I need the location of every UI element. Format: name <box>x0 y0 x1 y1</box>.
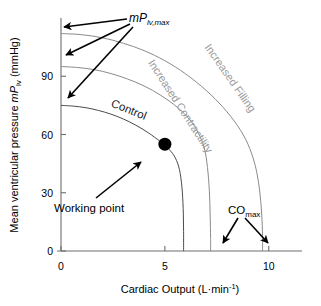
curve-inline-label-1: Increased Contractility <box>146 57 216 155</box>
curve-inline-label-0: Control <box>110 97 149 122</box>
mplvmax-annotation: mPlv,max <box>64 11 171 98</box>
curve-control <box>61 105 184 251</box>
x-axis-title-superscript: -1 <box>229 282 236 291</box>
comax-label: COmax <box>228 204 260 219</box>
y-axis-title-pre: Mean ventricular pressure <box>8 102 20 232</box>
y-tick-label-0: 0 <box>47 245 53 257</box>
comax-base: CO <box>228 204 245 216</box>
chart-canvas: 05100306090 ControlIncreased Contractili… <box>0 0 321 306</box>
x-axis-title-close: ) <box>236 283 240 295</box>
y-axis-title: Mean ventricular pressure mPlv (mmHg) <box>8 37 23 232</box>
y-tick-label-3: 90 <box>41 70 53 82</box>
y-tick-label-1: 30 <box>41 187 53 199</box>
y-tick-label-2: 60 <box>41 129 53 141</box>
curve-inline-label-2: Increased Filling <box>203 42 259 114</box>
curve-label-group: ControlIncreased ContractilityIncreased … <box>110 42 259 156</box>
mplvmax-subscript: lv,max <box>147 18 171 27</box>
comax-subscript: max <box>245 210 260 219</box>
mplvmax-leader-1 <box>64 19 127 27</box>
x-tick-label-1: 5 <box>162 260 168 272</box>
mplvmax-leader-2 <box>66 24 130 55</box>
mplvmax-label: mPlv,max <box>129 11 171 27</box>
curve-increased-contractility <box>61 67 211 251</box>
cardiac-output-pressure-chart: 05100306090 ControlIncreased Contractili… <box>0 0 321 306</box>
x-axis-title: Cardiac Output (L·min-1) <box>121 282 240 295</box>
comax-leader-right <box>245 218 268 243</box>
axis-group <box>57 18 302 251</box>
working-point-leader <box>96 162 141 198</box>
y-axis-title-post: (mmHg) <box>8 37 20 80</box>
x-axis-title-main: Cardiac Output (L·min <box>121 283 229 295</box>
x-tick-label-0: 0 <box>58 260 64 272</box>
mplvmax-base: mP <box>129 11 147 25</box>
comax-leader-left <box>223 218 238 243</box>
x-tick-label-2: 10 <box>263 260 275 272</box>
working-point-label: Working point <box>54 202 125 214</box>
marker-group <box>158 138 171 151</box>
working-point-marker <box>158 138 171 151</box>
working-point-annotation: Working point <box>54 162 141 214</box>
y-axis-title-symbol: mP <box>8 85 20 102</box>
